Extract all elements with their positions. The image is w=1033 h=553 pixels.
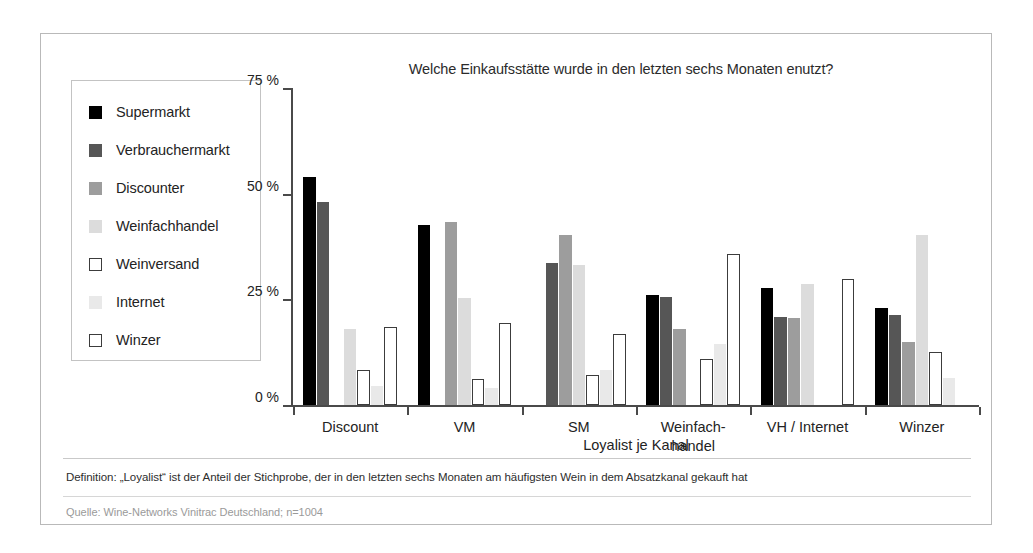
plot-area: 0 %25 %50 %75 % DiscountVMSMWeinfach- ha… <box>231 74 981 414</box>
x-axis-tick <box>636 407 638 415</box>
x-axis-category-label: Winzer <box>899 418 944 437</box>
legend-swatch-icon <box>89 296 102 309</box>
source-note: Quelle: Wine-Networks Vinitrac Deutschla… <box>66 506 323 518</box>
x-axis-category-label: SM <box>568 418 590 437</box>
chart-page: Welche Einkaufsstätte wurde in den letzt… <box>0 0 1033 553</box>
bar <box>546 263 559 405</box>
y-axis-label: 50 % <box>231 178 279 194</box>
legend-swatch-icon <box>89 106 102 119</box>
legend-swatch-icon <box>89 182 102 195</box>
legend-swatch-icon <box>89 220 102 233</box>
bar <box>445 222 458 405</box>
bar <box>371 386 384 405</box>
y-axis-tick <box>283 88 292 90</box>
chart-card: Welche Einkaufsstätte wurde in den letzt… <box>40 33 992 525</box>
bar <box>600 370 613 405</box>
x-axis-tick <box>293 407 295 415</box>
definition-divider <box>63 458 971 459</box>
bar-group <box>522 74 636 405</box>
x-axis-category-label: Discount <box>322 418 378 437</box>
bar <box>943 378 956 405</box>
bar <box>902 342 915 405</box>
source-divider <box>63 496 971 497</box>
bar-group <box>750 74 864 405</box>
bar <box>673 329 686 405</box>
legend-label: Weinversand <box>116 256 199 272</box>
bar <box>660 297 673 405</box>
legend-label: Supermarkt <box>116 104 190 120</box>
bar <box>472 379 485 405</box>
bar <box>458 298 471 405</box>
x-axis-tick <box>979 407 981 415</box>
bar <box>761 288 774 406</box>
bar <box>875 308 888 405</box>
bar <box>700 359 713 405</box>
bar <box>384 327 397 405</box>
bar-group <box>407 74 521 405</box>
bar-group <box>865 74 979 405</box>
y-axis-label: 25 % <box>231 283 279 299</box>
bar <box>842 279 855 405</box>
x-axis-title: Loyalist je Kanal <box>583 437 689 453</box>
bar <box>303 177 316 405</box>
y-axis-tick <box>283 405 292 407</box>
bar <box>801 284 814 405</box>
bar <box>929 352 942 405</box>
bar <box>889 315 902 405</box>
x-axis-category-label: VH / Internet <box>767 418 848 437</box>
y-axis-label: 75 % <box>231 72 279 88</box>
bar <box>559 235 572 405</box>
legend-label: Weinfachhandel <box>116 218 218 234</box>
x-axis-tick <box>865 407 867 415</box>
legend-swatch-icon <box>89 144 102 157</box>
bars-layer: DiscountVMSMWeinfach- handelVH / Interne… <box>293 74 979 407</box>
legend-swatch-icon <box>89 258 102 271</box>
x-axis-tick <box>407 407 409 415</box>
x-axis-tick <box>750 407 752 415</box>
bar-group <box>636 74 750 405</box>
bar <box>485 388 498 405</box>
bar <box>586 375 599 405</box>
bar <box>774 317 787 405</box>
bar-group <box>293 74 407 405</box>
legend-swatch-icon <box>89 334 102 347</box>
definition-note: Definition: „Loyalist“ ist der Anteil de… <box>66 471 747 483</box>
bar <box>727 254 740 405</box>
legend-label: Winzer <box>116 332 161 348</box>
legend-label: Discounter <box>116 180 184 196</box>
bar <box>916 235 929 405</box>
bar <box>788 318 801 405</box>
bar <box>714 344 727 405</box>
bar <box>418 225 431 405</box>
bar <box>317 202 330 405</box>
legend-label: Internet <box>116 294 164 310</box>
bar <box>573 265 586 405</box>
y-axis-tick <box>283 194 292 196</box>
bar <box>357 370 370 405</box>
y-axis-label: 0 % <box>231 389 279 405</box>
bar <box>613 334 626 405</box>
bar <box>344 329 357 405</box>
y-axis-tick <box>283 299 292 301</box>
bar <box>499 323 512 405</box>
x-axis-category-label: VM <box>454 418 476 437</box>
x-axis-tick <box>522 407 524 415</box>
legend-label: Verbrauchermarkt <box>116 142 230 158</box>
bar <box>646 295 659 405</box>
